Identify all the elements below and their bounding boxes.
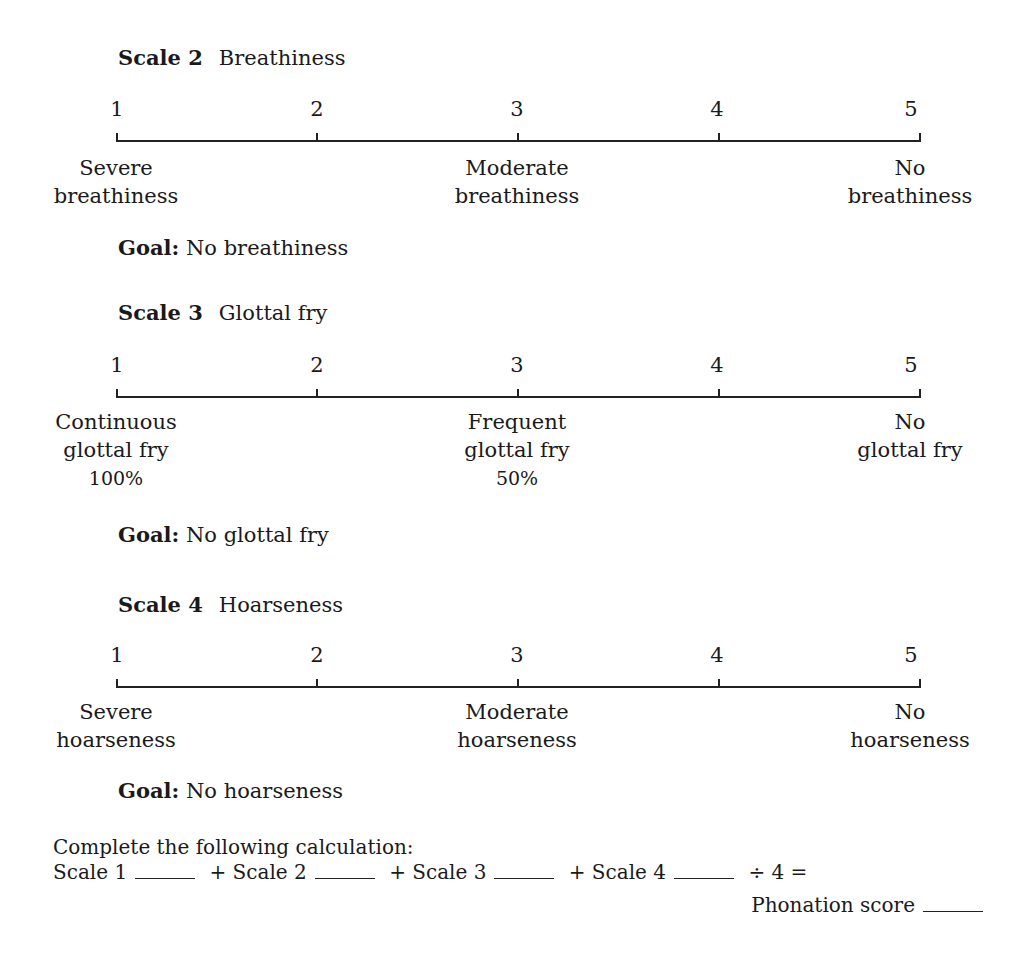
scale-3-blank[interactable] bbox=[494, 864, 554, 879]
scale-2-point-4: 4 bbox=[702, 97, 732, 121]
scale-3-tick bbox=[718, 389, 720, 397]
scale-2-point-5: 5 bbox=[896, 97, 926, 121]
scale-2-anchor-middle: Moderatebreathiness bbox=[437, 154, 597, 210]
scale-4-tick bbox=[517, 679, 519, 687]
scale-2-tick bbox=[316, 133, 318, 141]
scale-3-anchor-middle: Frequentglottal fry50% bbox=[437, 408, 597, 492]
scale-3-point-4: 4 bbox=[702, 353, 732, 377]
scale-2-line bbox=[116, 140, 921, 142]
scale-4-anchor-middle: Moderatehoarseness bbox=[437, 698, 597, 754]
scale-4-point-5: 5 bbox=[896, 643, 926, 667]
scale-4-tick bbox=[316, 679, 318, 687]
scale-4-anchor-right: Nohoarseness bbox=[830, 698, 990, 754]
calculation-instruction: Complete the following calculation: bbox=[53, 835, 414, 859]
scale-2-anchor-right: Nobreathiness bbox=[830, 154, 990, 210]
scale-4-goal: Goal: No hoarseness bbox=[118, 778, 343, 803]
phonation-score-blank[interactable] bbox=[923, 897, 983, 912]
scale-3-goal: Goal: No glottal fry bbox=[118, 522, 329, 547]
scale-3-point-2: 2 bbox=[302, 353, 332, 377]
scale-3-tick bbox=[919, 389, 921, 397]
calculation-row: Scale 1 + Scale 2 + Scale 3 + Scale 4 ÷ … bbox=[53, 860, 807, 884]
scale-3-tick bbox=[517, 389, 519, 397]
scale-4-title: Scale 4Hoarseness bbox=[118, 592, 343, 617]
scale-4-line bbox=[116, 686, 921, 688]
scale-2-tick bbox=[116, 133, 118, 141]
scale-2-blank[interactable] bbox=[315, 864, 375, 879]
scale-4-point-3: 3 bbox=[502, 643, 532, 667]
scale-3-title: Scale 3Glottal fry bbox=[118, 300, 327, 325]
scale-4-tick bbox=[116, 679, 118, 687]
scale-2-point-2: 2 bbox=[302, 97, 332, 121]
scale-3-point-3: 3 bbox=[502, 353, 532, 377]
scale-3-line bbox=[116, 396, 921, 398]
scale-4-point-4: 4 bbox=[702, 643, 732, 667]
scale-3-anchor-left: Continuousglottal fry100% bbox=[36, 408, 196, 492]
scale-4-anchor-left: Severehoarseness bbox=[36, 698, 196, 754]
scale-2-goal: Goal: No breathiness bbox=[118, 235, 348, 260]
scale-4-tick bbox=[919, 679, 921, 687]
scale-4-point-1: 1 bbox=[102, 643, 132, 667]
scale-2-tick bbox=[919, 133, 921, 141]
scale-3-point-1: 1 bbox=[102, 353, 132, 377]
scale-4-tick bbox=[718, 679, 720, 687]
scale-3-tick bbox=[316, 389, 318, 397]
scale-3-anchor-right: Noglottal fry bbox=[830, 408, 990, 464]
scale-4-point-2: 2 bbox=[302, 643, 332, 667]
scale-3-point-5: 5 bbox=[896, 353, 926, 377]
scale-2-tick bbox=[718, 133, 720, 141]
scale-2-title: Scale 2Breathiness bbox=[118, 45, 345, 70]
scale-3-tick bbox=[116, 389, 118, 397]
scale-2-point-1: 1 bbox=[102, 97, 132, 121]
phonation-score-row: Phonation score bbox=[751, 893, 983, 917]
scale-4-blank[interactable] bbox=[674, 864, 734, 879]
scale-1-blank[interactable] bbox=[135, 864, 195, 879]
scale-2-anchor-left: Severebreathiness bbox=[36, 154, 196, 210]
scale-2-tick bbox=[517, 133, 519, 141]
scale-2-point-3: 3 bbox=[502, 97, 532, 121]
